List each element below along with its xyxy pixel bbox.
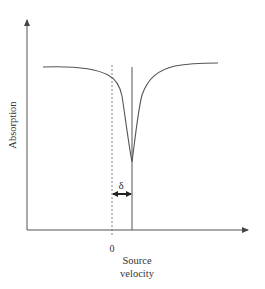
mossbauer-diagram: δ 0 Source velocity Absorption (0, 0, 265, 289)
absorption-curve (43, 63, 218, 162)
y-axis-label: Absorption (7, 101, 18, 149)
origin-tick-label: 0 (110, 243, 115, 254)
x-axis-label-line2: velocity (120, 268, 155, 279)
x-axis-label-line1: Source (122, 255, 151, 266)
delta-label: δ (118, 179, 123, 191)
